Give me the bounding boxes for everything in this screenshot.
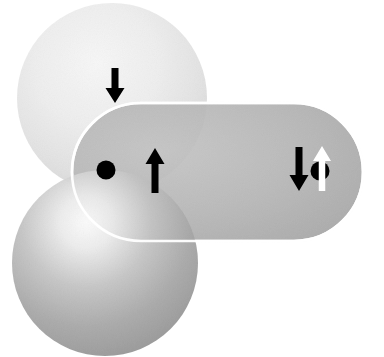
- nucleus-dot: [97, 161, 116, 180]
- lower-left-sphere: [12, 170, 198, 356]
- spin-diagram-svg: [0, 0, 384, 357]
- figure-canvas: [0, 0, 384, 357]
